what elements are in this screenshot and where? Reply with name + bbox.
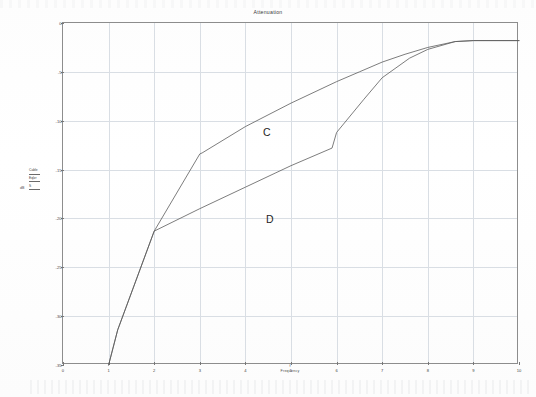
legend-item-cable: Cable	[29, 169, 57, 175]
attenuation-chart-figure: Attenuation dB Cable Eqlzr S 0-5-10-15-2…	[0, 0, 536, 397]
y-tick-label: -15	[56, 167, 62, 172]
curve-c	[109, 41, 519, 365]
y-tick-label: -5	[58, 69, 62, 74]
legend-item-eqlzr: Eqlzr	[29, 177, 57, 183]
legend-swatch-s	[29, 189, 40, 190]
legend-item-s: S	[29, 185, 57, 191]
y-tick-label: -10	[56, 118, 62, 123]
chart-legend: Cable Eqlzr S	[29, 169, 57, 192]
y-tick-label: -25	[56, 265, 62, 270]
y-tick-label: 0	[59, 21, 61, 26]
curve-layer	[63, 23, 519, 365]
curve-annotation-c: C	[263, 126, 271, 138]
chart-title: Attenuation	[0, 9, 536, 15]
x-axis-unit: f	[62, 364, 518, 368]
legend-label-eqlzr: Eqlzr	[29, 177, 57, 180]
y-tick-label: -35	[56, 363, 62, 368]
x-axis-label: Frequency	[62, 369, 518, 373]
x-tick-mark	[519, 362, 520, 365]
y-tick-label: -30	[56, 314, 62, 319]
plot-area: 0-5-10-15-20-25-30-35 012345678910 C D	[62, 22, 518, 364]
legend-swatch-cable	[29, 174, 40, 175]
legend-swatch-eqlzr	[29, 181, 40, 182]
legend-label-s: S	[29, 185, 57, 188]
y-axis-label: dB	[20, 186, 24, 190]
y-tick-label: -20	[56, 216, 62, 221]
legend-label-cable: Cable	[29, 169, 57, 172]
curve-annotation-d: D	[266, 213, 274, 225]
curve-d	[109, 41, 519, 365]
